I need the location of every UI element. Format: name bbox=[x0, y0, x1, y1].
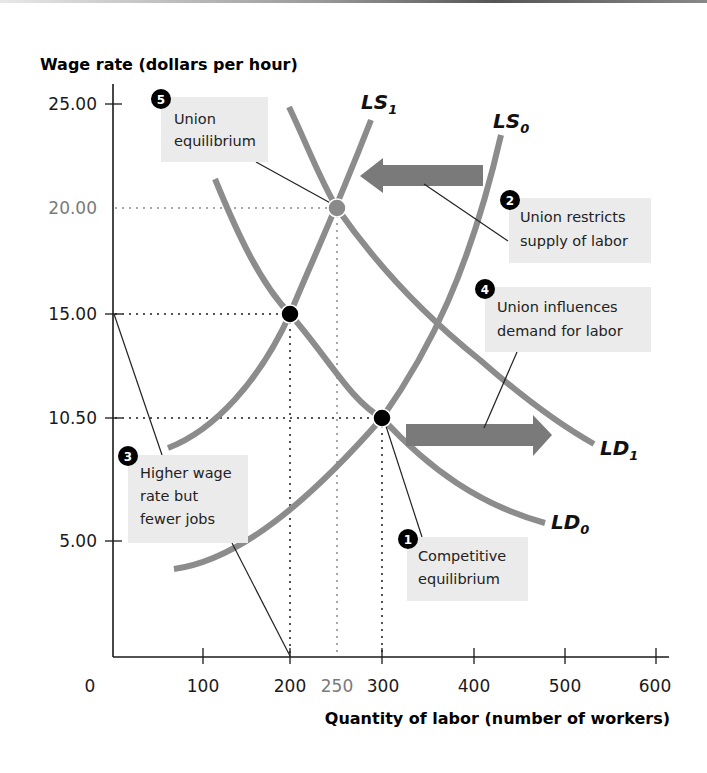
svg-text:Union influences: Union influences bbox=[497, 299, 618, 315]
note-union-restricts-supply: 2 Union restricts supply of labor bbox=[500, 190, 651, 263]
x-ticks bbox=[203, 648, 656, 664]
note-union-influences-demand: 4 Union influences demand for labor bbox=[475, 279, 651, 352]
arrow-demand-shift-right bbox=[406, 415, 552, 456]
curve-ld1 bbox=[289, 107, 594, 444]
guide-lines bbox=[116, 208, 382, 655]
svg-text:rate but: rate but bbox=[140, 488, 198, 504]
svg-text:equilibrium: equilibrium bbox=[418, 571, 500, 587]
note-higher-wage-fewer-jobs: 3 Higher wage rate but fewer jobs bbox=[118, 446, 248, 543]
x-tick-300: 300 bbox=[367, 676, 399, 696]
svg-text:5: 5 bbox=[157, 93, 165, 107]
x-tick-0: 0 bbox=[85, 676, 96, 696]
svg-text:demand for labor: demand for labor bbox=[497, 323, 623, 339]
label-ls0: LS0 bbox=[493, 109, 529, 136]
label-ld1: LD1 bbox=[600, 436, 638, 463]
y-tick-20: 20.00 bbox=[48, 198, 97, 218]
svg-text:Union restricts: Union restricts bbox=[520, 209, 626, 225]
supply-restricted-equilibrium-dot bbox=[281, 305, 299, 323]
union-equilibrium-dot bbox=[328, 199, 346, 217]
x-axis-title: Quantity of labor (number of workers) bbox=[325, 709, 670, 728]
y-tick-5: 5.00 bbox=[59, 531, 97, 551]
x-tick-500: 500 bbox=[549, 676, 581, 696]
svg-text:Higher wage: Higher wage bbox=[140, 465, 232, 481]
y-tick-10-50: 10.50 bbox=[48, 408, 97, 428]
label-ld0: LD0 bbox=[551, 510, 589, 537]
svg-text:Union: Union bbox=[174, 111, 216, 127]
label-ls1: LS1 bbox=[361, 90, 397, 117]
y-axis-title: Wage rate (dollars per hour) bbox=[40, 55, 298, 74]
labor-market-chart: Wage rate (dollars per hour) 25.00 20.00… bbox=[0, 0, 707, 773]
x-tick-250: 250 bbox=[321, 676, 353, 696]
svg-text:fewer jobs: fewer jobs bbox=[140, 511, 215, 527]
note-union-equilibrium: 5 Union equilibrium bbox=[151, 89, 268, 162]
svg-text:supply of labor: supply of labor bbox=[520, 233, 628, 249]
arrow-supply-shift-left bbox=[360, 158, 483, 193]
x-tick-200: 200 bbox=[274, 676, 306, 696]
y-tick-15: 15.00 bbox=[48, 304, 97, 324]
y-tick-25: 25.00 bbox=[48, 94, 97, 114]
svg-text:Competitive: Competitive bbox=[418, 548, 506, 564]
svg-text:1: 1 bbox=[404, 533, 412, 547]
x-tick-100: 100 bbox=[187, 676, 219, 696]
x-tick-400: 400 bbox=[458, 676, 490, 696]
note-competitive-equilibrium: 1 Competitive equilibrium bbox=[398, 529, 528, 601]
svg-text:equilibrium: equilibrium bbox=[174, 133, 256, 149]
x-tick-600: 600 bbox=[639, 676, 671, 696]
svg-text:3: 3 bbox=[124, 450, 132, 464]
svg-text:2: 2 bbox=[506, 194, 514, 208]
competitive-equilibrium-dot bbox=[373, 409, 391, 427]
svg-text:4: 4 bbox=[481, 283, 489, 297]
